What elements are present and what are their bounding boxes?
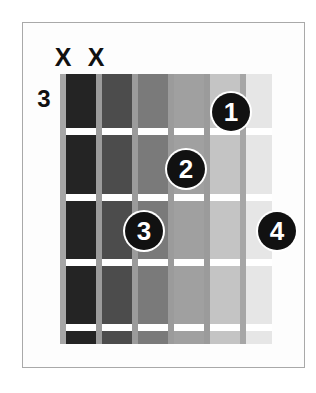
mute-marker-string-1: X [52, 45, 74, 70]
string-line-2 [96, 74, 102, 344]
string-line-3 [132, 74, 138, 344]
finger-dot-2: 2 [167, 150, 205, 188]
finger-dot-1: 1 [212, 93, 250, 131]
starting-fret-label: 3 [33, 86, 55, 112]
finger-dot-3: 3 [125, 212, 163, 250]
chord-diagram-card: 3 XX 1234 [0, 0, 316, 393]
mute-marker-string-2: X [85, 45, 107, 70]
string-line-4 [168, 74, 174, 344]
string-line-1 [60, 74, 66, 344]
string-line-5 [204, 74, 210, 344]
finger-dot-4: 4 [258, 212, 296, 250]
